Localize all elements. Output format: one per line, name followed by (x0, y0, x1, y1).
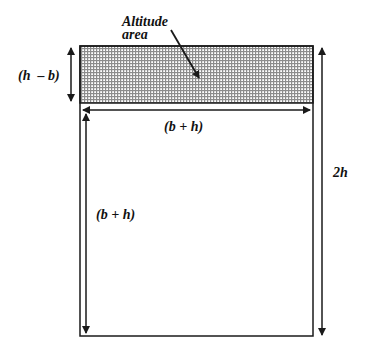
left-height-label: (h – b) (18, 68, 60, 84)
altitude-area-diagram: Altitude area (h – b) (b + h) (b + h) 2h (0, 0, 365, 359)
altitude-label-line2: area (122, 27, 148, 42)
top-width-label: (b + h) (164, 119, 203, 135)
right-height-label: 2h (332, 165, 348, 180)
inner-height-label: (b + h) (96, 207, 135, 223)
